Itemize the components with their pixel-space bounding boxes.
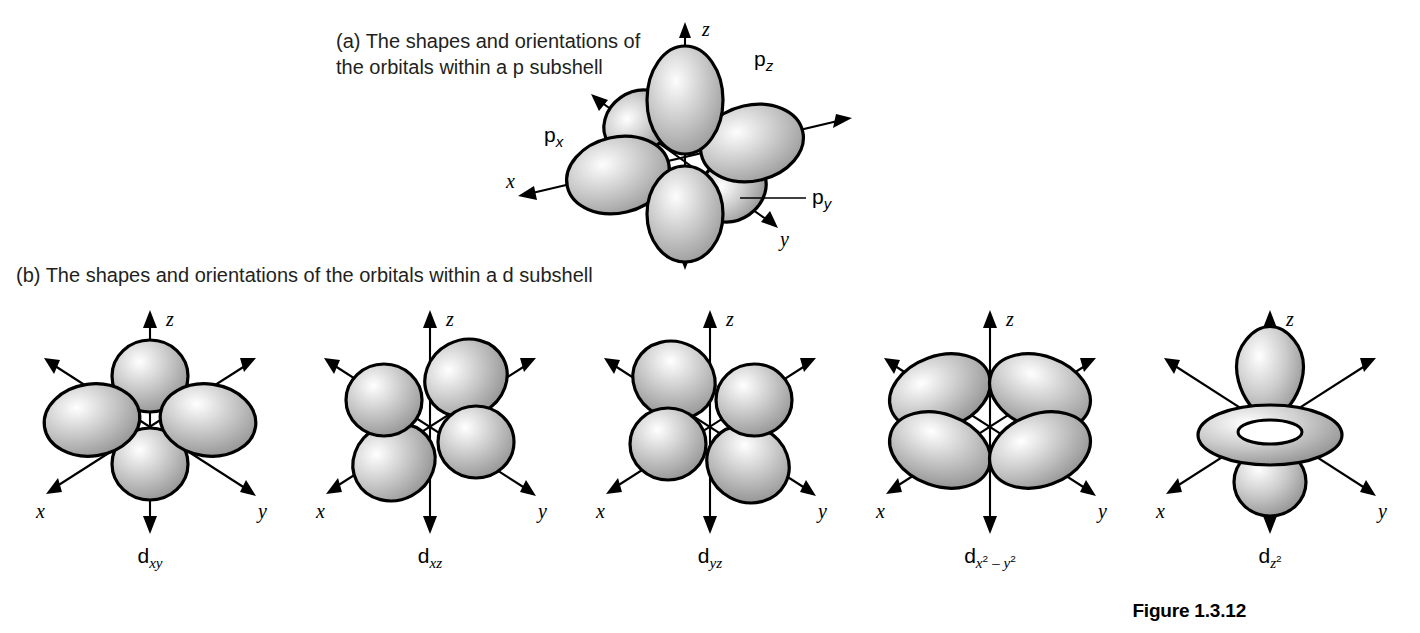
d-xy-orbital-label: dxy xyxy=(8,544,292,572)
d-xy-axis-label-z: z xyxy=(165,308,174,330)
d-xz-orbital-label: dxz xyxy=(288,544,572,572)
d-z2-orbital: z x y dz2 xyxy=(1128,292,1412,582)
p-subshell-diagram: z x y pz px py xyxy=(470,8,900,278)
d-xz-axis-label-x: x xyxy=(315,500,325,522)
d-xz-axis-label-z: z xyxy=(445,308,454,330)
d-yz-axis-label-z: z xyxy=(725,308,734,330)
d-yz-axis-label-y: y xyxy=(816,500,827,523)
figure-number: Figure 1.3.12 xyxy=(1132,600,1246,622)
d-xy-axis-label-y: y xyxy=(256,500,267,523)
p-z-orbital-label: pz xyxy=(754,47,774,74)
d-yz-orbital: z x y dyz xyxy=(568,292,852,582)
d-x2-y2-orbital-label: dx2 – y2 xyxy=(848,544,1132,572)
d-subshell-row: z x y dxy z xyxy=(0,292,1420,582)
d-x2-y2-orbital: z x y dx2 – y2 xyxy=(848,292,1132,582)
d-xy-axis-label-x: x xyxy=(35,500,45,522)
d-xz-axis-label-y: y xyxy=(536,500,547,523)
d-z2-orbital-label: dz2 xyxy=(1128,544,1412,572)
p-axis-label-z: z xyxy=(701,18,710,40)
d-z2-axis-label-x: x xyxy=(1155,500,1165,522)
caption-panel-b: (b) The shapes and orientations of the o… xyxy=(16,262,616,288)
d-z2-axis-label-z: z xyxy=(1285,308,1294,330)
d-xz-orbital: z x y dxz xyxy=(288,292,572,582)
d-yz-axis-label-x: x xyxy=(595,500,605,522)
p-axis-label-y: y xyxy=(778,228,789,251)
d-x2-y2-axis-label-x: x xyxy=(875,500,885,522)
d-z2-axis-label-y: y xyxy=(1376,500,1387,523)
d-yz-orbital-label: dyz xyxy=(568,544,852,572)
p-axis-label-x: x xyxy=(505,170,515,192)
p-y-orbital-label: py xyxy=(812,185,833,212)
d-x2-y2-axis-label-z: z xyxy=(1005,308,1014,330)
d-z2-lobes xyxy=(1198,327,1342,517)
p-x-orbital-label: px xyxy=(544,123,564,150)
d-xy-orbital: z x y dxy xyxy=(8,292,292,582)
d-x2-y2-axis-label-y: y xyxy=(1096,500,1107,523)
